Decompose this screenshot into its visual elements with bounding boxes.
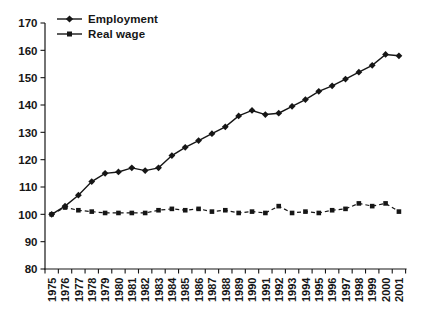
x-tick-label-1984: 1984 — [166, 277, 178, 302]
employment-marker-1992 — [275, 110, 282, 117]
y-tick-label-120: 120 — [18, 154, 37, 166]
plot-area: 8090100110120130140150160170197519761977… — [0, 0, 430, 317]
real-wage-marker-1999 — [370, 204, 375, 209]
real-wage-marker-1980 — [116, 211, 121, 216]
real-wage-marker-1984 — [170, 207, 175, 212]
legend: Employment Real wage — [56, 13, 158, 40]
real-wage-marker-1990 — [250, 209, 255, 214]
real-wage-marker-1985 — [183, 208, 188, 213]
x-tick-label-1988: 1988 — [220, 278, 232, 302]
real-wage-marker-1979 — [103, 211, 108, 216]
real-wage-marker-1997 — [343, 207, 348, 212]
y-tick-label-90: 90 — [25, 236, 38, 248]
y-tick-label-80: 80 — [25, 263, 38, 275]
employment-marker-1981 — [128, 164, 135, 171]
employment-marker-1996 — [329, 82, 336, 89]
x-tick-label-1980: 1980 — [113, 278, 125, 302]
real-wage-marker-1995 — [316, 211, 321, 216]
real-wage-marker-1975 — [49, 212, 54, 217]
employment-marker-1982 — [142, 167, 149, 174]
real-wage-marker-1996 — [330, 208, 335, 213]
y-tick-label-160: 160 — [18, 45, 37, 57]
y-tick-label-130: 130 — [18, 127, 37, 139]
employment-marker-1995 — [315, 88, 322, 95]
x-tick-label-1997: 1997 — [340, 278, 352, 302]
employment-marker-1990 — [249, 107, 256, 114]
x-tick-label-1999: 1999 — [366, 278, 378, 302]
x-tick-label-1983: 1983 — [153, 278, 165, 302]
legend-label-employment: Employment — [88, 13, 158, 25]
real-wage-marker-1986 — [196, 207, 201, 212]
employment-marker-1994 — [302, 96, 309, 103]
x-tick-label-1975: 1975 — [46, 278, 58, 302]
employment-marker-1997 — [342, 76, 349, 83]
x-tick-label-1985: 1985 — [179, 278, 191, 302]
employment-marker-1987 — [209, 130, 216, 137]
real-wage-marker-1978 — [89, 209, 94, 214]
x-tick-label-1981: 1981 — [126, 278, 138, 302]
x-tick-label-1987: 1987 — [206, 278, 218, 302]
employment-marker-1993 — [289, 103, 296, 110]
employment-marker-1998 — [355, 69, 362, 76]
real-wage-marker-1981 — [130, 211, 135, 216]
real-wage-marker-2000 — [383, 201, 388, 206]
employment-marker-1985 — [182, 144, 189, 151]
y-tick-label-110: 110 — [19, 181, 38, 193]
real-wage-marker-1983 — [156, 208, 161, 213]
real-wage-marker-1982 — [143, 211, 148, 216]
x-tick-label-1990: 1990 — [246, 278, 258, 302]
real-wage-marker-1991 — [263, 211, 268, 216]
real-wage-marker-1977 — [76, 208, 81, 213]
x-tick-label-1977: 1977 — [73, 278, 85, 302]
x-tick-label-1982: 1982 — [139, 278, 151, 302]
x-tick-label-1979: 1979 — [99, 278, 111, 302]
x-tick-label-2001: 2001 — [393, 278, 405, 302]
legend-item-employment: Employment — [56, 13, 158, 25]
real-wage-marker-1989 — [236, 211, 241, 216]
x-tick-label-1996: 1996 — [326, 278, 338, 302]
y-tick-label-140: 140 — [18, 99, 37, 111]
employment-marker-1991 — [262, 111, 269, 118]
x-tick-label-1992: 1992 — [273, 278, 285, 302]
real-wage-marker-1998 — [357, 201, 362, 206]
employment-marker-1986 — [195, 137, 202, 144]
y-tick-label-150: 150 — [18, 72, 37, 84]
x-tick-label-1989: 1989 — [233, 278, 245, 302]
legend-label-real-wage: Real wage — [88, 28, 145, 40]
y-tick-label-100: 100 — [18, 209, 37, 221]
employment-marker-1980 — [115, 169, 122, 176]
real-wage-marker-1988 — [223, 208, 228, 213]
real-wage-marker-1994 — [303, 209, 308, 214]
y-tick-label-170: 170 — [18, 17, 37, 29]
real-wage-swatch-icon — [56, 28, 83, 40]
x-tick-label-1995: 1995 — [313, 278, 325, 302]
employment-marker-2001 — [396, 52, 403, 59]
x-tick-label-1991: 1991 — [260, 278, 272, 302]
real-wage-marker-2001 — [397, 209, 402, 214]
x-tick-label-1993: 1993 — [286, 278, 298, 302]
real-wage-marker-1987 — [210, 209, 215, 214]
x-tick-label-1994: 1994 — [300, 277, 312, 302]
real-wage-marker-1976 — [63, 205, 68, 210]
x-tick-label-2000: 2000 — [380, 278, 392, 302]
legend-item-real-wage: Real wage — [56, 28, 158, 40]
x-tick-label-1976: 1976 — [59, 278, 71, 302]
x-tick-label-1998: 1998 — [353, 278, 365, 302]
real-wage-marker-1993 — [290, 211, 295, 216]
chart-figure: Employment Real wage 8090100110120130140… — [0, 0, 430, 317]
real-wage-marker-1992 — [276, 204, 281, 209]
x-tick-label-1986: 1986 — [193, 278, 205, 302]
employment-marker-1979 — [102, 170, 109, 177]
x-tick-label-1978: 1978 — [86, 278, 98, 302]
employment-swatch-icon — [56, 13, 83, 25]
